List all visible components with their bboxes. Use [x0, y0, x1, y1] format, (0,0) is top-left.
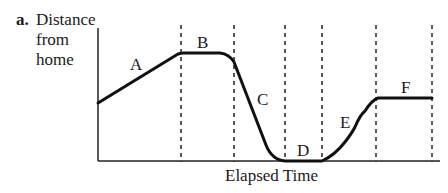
segment-label-b: B [197, 33, 208, 53]
chart-plot [0, 0, 448, 193]
segment-label-c: C [257, 90, 268, 110]
segment-label-d: D [297, 141, 309, 161]
segment-label-e: E [340, 113, 350, 133]
segment-label-f: F [401, 78, 410, 98]
segment-label-a: A [130, 55, 142, 75]
